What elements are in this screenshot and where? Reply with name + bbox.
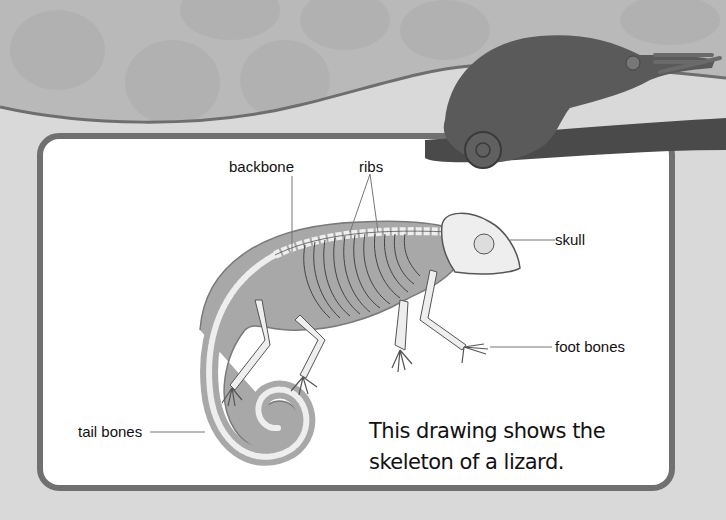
caption-line-1: This drawing shows the (369, 416, 605, 447)
caption-line-2: skeleton of a lizard. (369, 447, 605, 478)
label-skull: skull (555, 231, 585, 248)
chameleon-tail-coil (465, 132, 501, 168)
label-foot-bones: foot bones (555, 338, 625, 355)
chameleon-photo (0, 0, 726, 520)
label-tail-bones: tail bones (78, 423, 142, 440)
caption: This drawing shows the skeleton of a liz… (369, 416, 605, 478)
label-backbone: backbone (229, 158, 294, 175)
label-ribs: ribs (359, 158, 383, 175)
chameleon-eye (626, 56, 640, 70)
